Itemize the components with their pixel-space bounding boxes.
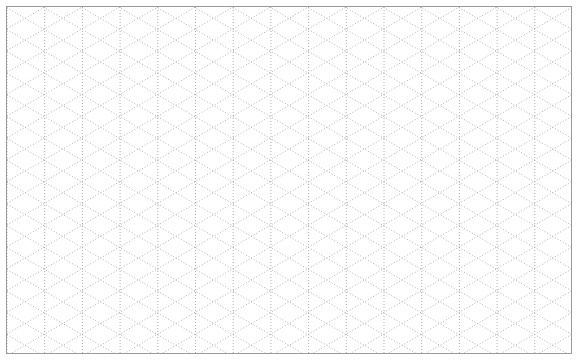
sheet-frame <box>6 6 572 354</box>
grid-diagonal-up-lines <box>7 7 571 353</box>
grid-diagonal-down-lines <box>7 7 571 353</box>
page-root <box>0 0 581 364</box>
isometric-grid <box>7 7 571 353</box>
grid-vertical-lines <box>7 7 535 353</box>
